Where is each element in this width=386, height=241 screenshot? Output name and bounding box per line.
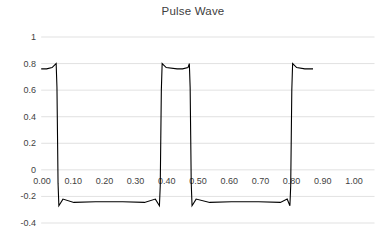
plot-area xyxy=(0,0,386,241)
chart-container: Pulse Wave 1 0.8 0.6 0.4 0.2 0 -0.2 -0.4… xyxy=(0,0,386,241)
gridlines xyxy=(41,37,374,223)
pulse-wave-series xyxy=(41,64,313,206)
